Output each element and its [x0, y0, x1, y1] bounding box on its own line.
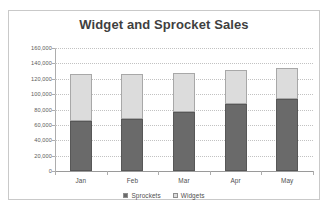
- y-axis-tick-label: 120,000: [31, 76, 52, 82]
- gridline: [55, 63, 313, 64]
- bar-segment-sprockets[interactable]: [173, 112, 195, 171]
- bar-segment-widgets[interactable]: [121, 74, 143, 119]
- x-axis-tick-label: Mar: [158, 177, 210, 184]
- x-axis-tick: [261, 171, 262, 175]
- bar-segment-sprockets[interactable]: [121, 119, 143, 171]
- y-axis-tick-labels: 160,000140,000120,000100,00080,00060,000…: [15, 48, 52, 171]
- y-axis-tick: [52, 125, 55, 126]
- legend-swatch-icon: [173, 193, 178, 198]
- x-axis-tick: [313, 171, 314, 175]
- legend-swatch-icon: [123, 193, 128, 198]
- y-axis-tick: [52, 110, 55, 111]
- bar-segment-sprockets[interactable]: [225, 104, 247, 171]
- bar-segment-widgets[interactable]: [70, 74, 92, 121]
- y-axis-tick: [52, 140, 55, 141]
- legend-label: Sprockets: [131, 192, 160, 199]
- y-axis-tick-label: 140,000: [31, 60, 52, 66]
- y-axis-tick: [52, 156, 55, 157]
- x-axis-tick-label: Feb: [106, 177, 158, 184]
- bar-segment-sprockets[interactable]: [70, 121, 92, 171]
- x-axis-tick-label: May: [261, 177, 313, 184]
- bar-segment-widgets[interactable]: [276, 68, 298, 99]
- x-axis-tick: [55, 171, 56, 175]
- y-axis-tick-label: 80,000: [34, 107, 52, 113]
- bar-segment-widgets[interactable]: [225, 70, 247, 105]
- x-axis-tick: [107, 171, 108, 175]
- y-axis-tick-label: 20,000: [34, 153, 52, 159]
- chart-title: Widget and Sprocket Sales: [9, 17, 319, 32]
- y-axis-tick: [52, 48, 55, 49]
- legend-label: Widgets: [181, 192, 205, 199]
- chart-frame: Widget and Sprocket Sales 160,000140,000…: [8, 10, 320, 200]
- y-axis-tick-label: 100,000: [31, 91, 52, 97]
- y-axis-tick: [52, 94, 55, 95]
- x-axis-tick: [158, 171, 159, 175]
- bar-segment-widgets[interactable]: [173, 73, 195, 111]
- x-axis-tick-label: Apr: [210, 177, 262, 184]
- y-axis-tick-label: 60,000: [34, 122, 52, 128]
- x-axis-tick: [210, 171, 211, 175]
- bar-segment-sprockets[interactable]: [276, 99, 298, 171]
- x-axis-line: [55, 171, 314, 172]
- y-axis-tick: [52, 79, 55, 80]
- y-axis-tick-label: 40,000: [34, 137, 52, 143]
- legend-item-sprockets[interactable]: Sprockets: [123, 192, 160, 199]
- legend-item-widgets[interactable]: Widgets: [173, 192, 205, 199]
- plot-area: [55, 48, 313, 171]
- chart-legend: SprocketsWidgets: [9, 192, 319, 199]
- y-axis-tick-label: 160,000: [31, 45, 52, 51]
- top-edge-artifact: [0, 0, 328, 9]
- gridline: [55, 48, 313, 49]
- x-axis-tick-label: Jan: [55, 177, 107, 184]
- y-axis-tick: [52, 63, 55, 64]
